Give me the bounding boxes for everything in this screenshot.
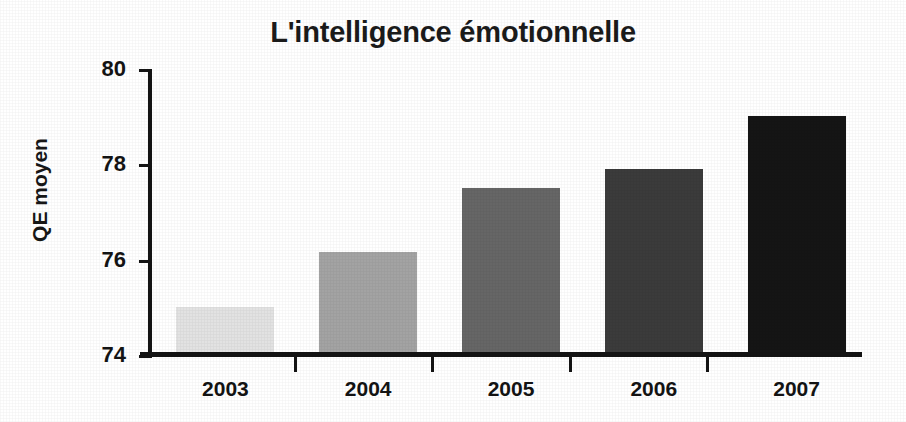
x-tick-label-2004: 2004 bbox=[313, 378, 423, 399]
bar-2004 bbox=[319, 252, 417, 352]
x-tick-label-2006: 2006 bbox=[599, 378, 709, 399]
x-axis-line bbox=[140, 352, 862, 357]
x-tick-label-2007: 2007 bbox=[742, 378, 852, 399]
plot-area: 74 76 78 80 2003 2004 2005 2006 2007 bbox=[148, 66, 862, 356]
bar-2003 bbox=[176, 307, 274, 352]
x-tick-label-2003: 2003 bbox=[170, 378, 280, 399]
y-tick-mark-80 bbox=[139, 69, 152, 72]
y-tick-mark-78 bbox=[139, 164, 152, 167]
x-tick-label-2005: 2005 bbox=[456, 378, 566, 399]
y-tick-label-80: 80 bbox=[80, 58, 126, 80]
chart-title: L'intelligence émotionnelle bbox=[0, 16, 906, 49]
y-axis-line bbox=[148, 70, 152, 355]
y-tick-label-74: 74 bbox=[80, 344, 126, 366]
bar-2007 bbox=[748, 116, 846, 352]
x-tick-mark-1 bbox=[431, 357, 434, 372]
y-tick-label-78: 78 bbox=[80, 153, 126, 175]
x-tick-mark-0 bbox=[294, 357, 297, 372]
bar-2006 bbox=[605, 169, 703, 353]
y-axis-title: QE moyen bbox=[28, 110, 52, 270]
x-tick-mark-3 bbox=[706, 357, 709, 372]
bar-2005 bbox=[462, 188, 560, 353]
chart-figure: L'intelligence émotionnelle QE moyen 74 … bbox=[0, 0, 906, 422]
y-tick-mark-74 bbox=[139, 355, 152, 358]
y-tick-mark-76 bbox=[139, 260, 152, 263]
y-tick-label-76: 76 bbox=[80, 249, 126, 271]
x-tick-mark-2 bbox=[569, 357, 572, 372]
